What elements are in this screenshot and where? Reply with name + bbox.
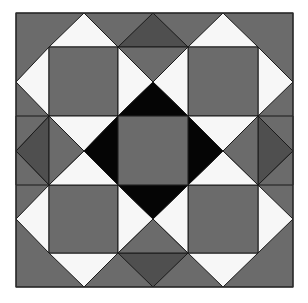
- corner-square-bottom-left: [49, 185, 118, 253]
- quilt-block: [0, 0, 308, 303]
- center-square: [118, 116, 188, 185]
- corner-square-top-left: [49, 47, 118, 116]
- corner-square-top-right: [188, 47, 258, 116]
- corner-square-bottom-right: [188, 185, 258, 253]
